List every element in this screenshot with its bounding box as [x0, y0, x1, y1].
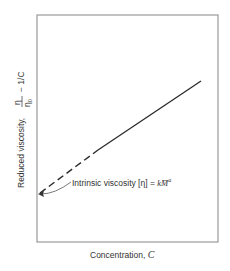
data-line: [98, 81, 201, 150]
plot-frame: [37, 15, 218, 242]
y-axis-label: Reduced viscosity, η η0 − 1/C: [12, 71, 33, 188]
annotation-label: Intrinsic viscosity [η] = kM̄a: [72, 177, 171, 188]
svg-text:η: η: [12, 100, 22, 105]
annotation-leader: [41, 182, 71, 194]
svg-text:Reduced viscosity,: Reduced viscosity,: [16, 118, 26, 188]
svg-text:− 1/C: − 1/C: [16, 71, 26, 92]
svg-text:η0: η0: [22, 99, 33, 107]
viscosity-chart: Intrinsic viscosity [η] = kM̄a Concentra…: [0, 0, 230, 271]
x-axis-label: Concentration, C: [90, 249, 155, 260]
